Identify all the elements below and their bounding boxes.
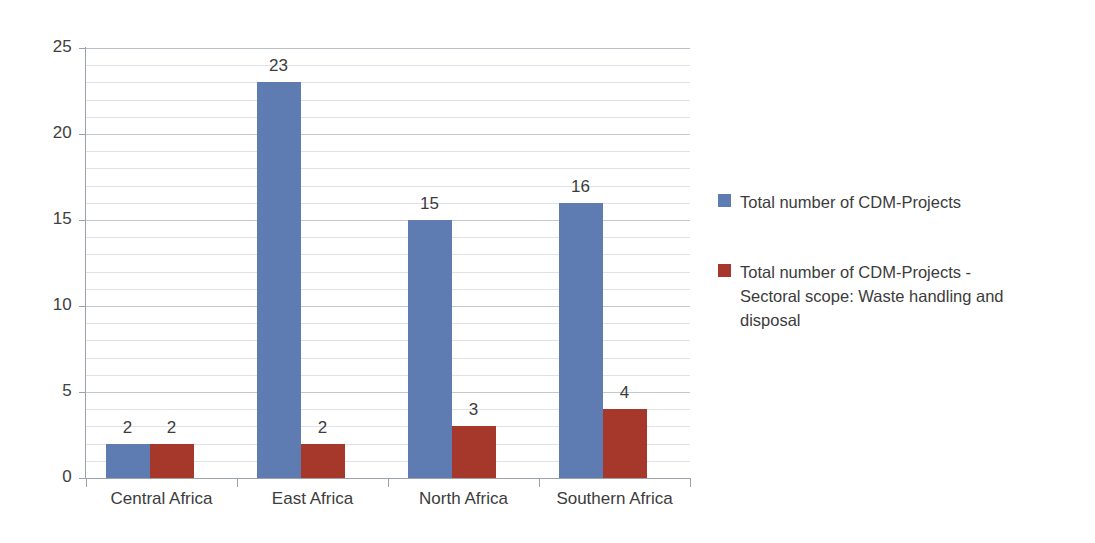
bar-value-label: 3 bbox=[452, 400, 496, 420]
x-axis-category-label: Central Africa bbox=[86, 489, 237, 509]
bar[interactable] bbox=[150, 444, 194, 478]
x-axis-category-label: North Africa bbox=[388, 489, 539, 509]
bar[interactable] bbox=[603, 409, 647, 478]
bar[interactable] bbox=[559, 203, 603, 478]
bar-value-label: 2 bbox=[301, 418, 345, 438]
bar-value-label: 23 bbox=[257, 56, 301, 76]
bar[interactable] bbox=[106, 444, 150, 478]
bar-value-label: 4 bbox=[603, 383, 647, 403]
legend-item-label: Total number of CDM-Projects - Sectoral … bbox=[740, 260, 1008, 332]
bar-value-label: 2 bbox=[150, 418, 194, 438]
bar[interactable] bbox=[408, 220, 452, 478]
x-axis-category-label: East Africa bbox=[237, 489, 388, 509]
bar[interactable] bbox=[257, 82, 301, 478]
x-axis-category-label: Southern Africa bbox=[539, 489, 690, 509]
legend-item-total-cdm-projects[interactable]: Total number of CDM-Projects bbox=[718, 190, 1058, 214]
chart-legend: Total number of CDM-Projects Total numbe… bbox=[718, 190, 1058, 378]
legend-item-label: Total number of CDM-Projects bbox=[740, 190, 961, 214]
bar-value-label: 2 bbox=[106, 418, 150, 438]
bar[interactable] bbox=[301, 444, 345, 478]
legend-item-waste-handling-and-disposal[interactable]: Total number of CDM-Projects - Sectoral … bbox=[718, 260, 1058, 332]
legend-swatch-icon bbox=[718, 194, 731, 207]
bar-value-label: 15 bbox=[408, 194, 452, 214]
bar[interactable] bbox=[452, 426, 496, 478]
bar-chart: 0510152025 22Central Africa232East Afric… bbox=[0, 0, 1095, 543]
bar-value-label: 16 bbox=[559, 177, 603, 197]
legend-swatch-icon bbox=[718, 264, 731, 277]
